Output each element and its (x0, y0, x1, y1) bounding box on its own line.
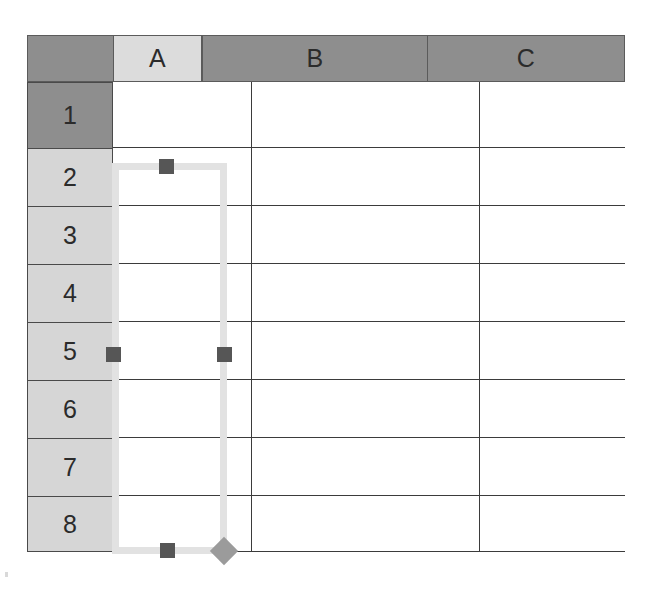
gridline-h-6 (113, 437, 625, 438)
gridline-v-bc (479, 82, 480, 552)
cells-area[interactable] (113, 82, 625, 552)
row-header-8[interactable]: 8 (27, 496, 113, 552)
gridline-h-3 (113, 263, 625, 264)
gridline-h-2 (113, 205, 625, 206)
row-header-6[interactable]: 6 (27, 380, 113, 438)
row-header-5[interactable]: 5 (27, 322, 113, 380)
select-all-corner[interactable] (27, 35, 113, 82)
gridline-h-4 (113, 321, 625, 322)
row-header-3[interactable]: 3 (27, 206, 113, 264)
row-header-1[interactable]: 1 (27, 82, 113, 148)
spreadsheet-canvas: A B C 1 2 3 4 5 6 7 8 (0, 0, 661, 598)
gridline-h-7 (113, 495, 625, 496)
resize-handle-middle-right-icon[interactable] (217, 347, 232, 362)
row-header-2[interactable]: 2 (27, 148, 113, 206)
row-header-7[interactable]: 7 (27, 438, 113, 496)
resize-handle-bottom-center-icon[interactable] (160, 543, 175, 558)
gridline-v-ab (251, 82, 252, 552)
page-speck (5, 572, 8, 577)
column-header-row: A B C (27, 35, 625, 82)
resize-handle-middle-left-icon[interactable] (106, 347, 121, 362)
resize-handle-top-center-icon[interactable] (159, 159, 174, 174)
column-header-c[interactable]: C (427, 35, 625, 82)
row-header-column: 1 2 3 4 5 6 7 8 (27, 82, 113, 552)
grid-frame: A B C 1 2 3 4 5 6 7 8 (27, 35, 625, 552)
row-header-4[interactable]: 4 (27, 264, 113, 322)
gridline-h-1 (113, 147, 625, 148)
gridline-h-5 (113, 379, 625, 380)
column-header-a[interactable]: A (113, 35, 202, 82)
column-header-b[interactable]: B (202, 35, 427, 82)
gridline-h-8 (113, 551, 625, 552)
